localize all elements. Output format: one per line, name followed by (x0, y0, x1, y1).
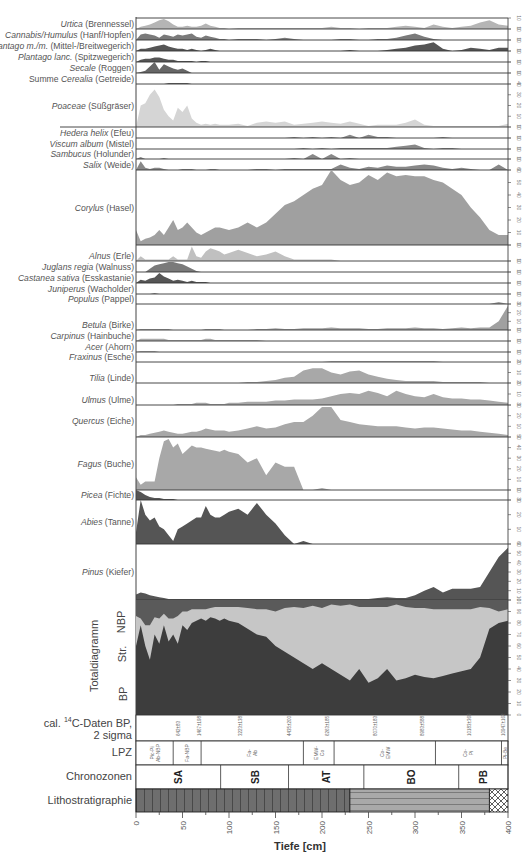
scale-tick-label: 10 (516, 319, 522, 325)
area-curve (136, 439, 508, 490)
scale-tick-label: 60 (516, 167, 522, 173)
taxon-label: Fagus (Buche) (78, 459, 134, 469)
area-curve (136, 33, 508, 40)
scale-tick-label: 10 (516, 135, 522, 141)
taxon-label: Urtica (Brennessel) (60, 19, 134, 29)
taxon-label: Juglans regia (Walnuss) (42, 262, 134, 272)
scale-tick-label: 10 (516, 391, 522, 397)
taxon-label: Castanea sativa (Esskastanie) (18, 273, 134, 283)
panel-castanea-sativa (136, 273, 508, 283)
area-curve (136, 58, 508, 62)
panel-plantago-m-m- (136, 42, 508, 51)
area-curve (136, 42, 508, 51)
scale-tick-label: 20 (516, 413, 522, 419)
scale-tick-label: 10 (516, 258, 522, 264)
lpz-zone-label: Ab-NBP (155, 743, 161, 762)
scale-tick-label: 20 (516, 103, 522, 109)
svg-text:100: 100 (516, 596, 522, 605)
c14-date: 10183±369 (467, 713, 472, 736)
x-tick-label: 400 (504, 820, 513, 834)
scale-tick-label: 40 (516, 192, 522, 198)
panel-urtica (136, 19, 508, 29)
scale-tick-label: 10 (516, 327, 522, 333)
x-tick-label: 150 (272, 820, 281, 834)
scale-tick-label: 10 (516, 424, 522, 430)
x-tick-label: 350 (458, 820, 467, 834)
x-tick-label: 300 (411, 820, 420, 834)
scale-tick-label: 20 (516, 217, 522, 223)
x-tick-label: 50 (179, 820, 188, 829)
taxon-label: Betula (Birke) (82, 320, 134, 330)
scale-tick-label: 20 (516, 512, 522, 518)
taxon-label: Juniperus (Wacholder) (48, 284, 134, 294)
scale-tick-label: 10 (516, 291, 522, 297)
panel-hedera-helix (136, 135, 508, 138)
chronozone-label: SB (250, 770, 261, 784)
taxon-label: Pinus (Kiefer) (82, 567, 134, 577)
scale-tick-label: 10 (516, 269, 522, 275)
svg-text:80: 80 (516, 620, 522, 626)
scale-tick-label: 20 (516, 359, 522, 365)
scale-tick-label: 40 (516, 560, 522, 566)
taxon-label: Plantago lanc. (Spitzwegerich) (18, 52, 134, 62)
area-curve (136, 135, 508, 138)
x-tick-label: 100 (225, 820, 234, 834)
c14-date: 3223±138 (238, 716, 243, 736)
panel-carpinus (136, 339, 508, 341)
total-label-str: Str. (116, 646, 128, 663)
lpz-zone-label: Ab (252, 750, 258, 756)
scale-tick-label: 20 (516, 466, 522, 472)
c14-date: 10947±162 (501, 713, 506, 736)
area-curve (136, 19, 508, 29)
chronozone-label: AT (321, 771, 332, 784)
taxon-label: Alnus (Erle) (89, 251, 134, 261)
area-curve (136, 500, 508, 544)
scale-tick-label: 30 (516, 569, 522, 575)
taxon-label: Picea (Fichte) (81, 490, 134, 500)
taxon-label: Sambucus (Holunder) (50, 149, 134, 159)
taxon-label: Fraxinus (Esche) (69, 352, 134, 362)
scale-tick-label: 10 (516, 15, 522, 21)
area-curve (136, 548, 508, 600)
scale-tick-label: 20 (516, 579, 522, 585)
total-label-bp: BP (117, 687, 129, 702)
panel-corylus (136, 170, 508, 245)
chronozone-label: SA (173, 770, 184, 784)
taxon-label: Poaceae (Süßgräser) (52, 101, 134, 111)
scale-tick-label: 20 (516, 310, 522, 316)
chronozone-label: BO (406, 769, 417, 784)
taxon-label: Carpinus (Hainbuche) (50, 331, 134, 341)
scale-tick-label: 10 (516, 230, 522, 236)
lpz-label: LPZ (112, 746, 132, 758)
panel-juglans-regia (136, 262, 508, 272)
area-curve (136, 89, 508, 127)
area-curve (136, 407, 508, 437)
scale-tick-label: 10 (516, 280, 522, 286)
panel-poaceae (136, 89, 508, 127)
svg-text:60: 60 (516, 643, 522, 649)
panel-plantago-lanc- (136, 58, 508, 62)
svg-text:20: 20 (516, 689, 522, 695)
scale-tick-label: 10 (516, 124, 522, 130)
area-curve (136, 161, 508, 170)
scale-tick-label: 30 (516, 205, 522, 211)
taxon-label: Summe Cerealia (Getreide) (29, 74, 134, 84)
panel-picea (136, 490, 508, 500)
panel-ulmus (136, 391, 508, 405)
scale-tick-label: 40 (516, 445, 522, 451)
scale-tick-label: 40 (516, 81, 522, 87)
c14-label-line2: 2 sigma (93, 729, 132, 741)
svg-text:40: 40 (516, 666, 522, 672)
c14-date: 8070±183 (373, 716, 378, 736)
chronozonen-label: Chronozonen (66, 770, 132, 782)
scale-tick-label: 10 (516, 37, 522, 43)
litho-unit (350, 789, 490, 812)
zone-bands: 642±831467±1983223±1384435±2006263±18580… (136, 713, 508, 812)
scale-tick-label: 60 (516, 541, 522, 547)
scale-tick-label: 10 (516, 338, 522, 344)
scale-tick-label: 10 (516, 477, 522, 483)
scale-tick-label: 50 (516, 434, 522, 440)
panel-fraxinus (136, 361, 508, 362)
scale-tick-label: 30 (516, 92, 522, 98)
area-curve (136, 306, 508, 330)
